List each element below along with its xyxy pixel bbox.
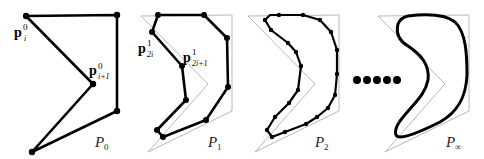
svg-text:0: 0: [104, 142, 109, 152]
ellipsis-dots: [353, 76, 401, 84]
svg-text:2i+1: 2i+1: [192, 59, 208, 68]
panel-p-infinity: P ∞: [378, 15, 469, 152]
svg-text:P: P: [314, 134, 324, 150]
svg-text:p: p: [138, 41, 146, 56]
svg-text:0: 0: [23, 22, 28, 32]
svg-text:p: p: [183, 50, 191, 65]
svg-text:1: 1: [147, 38, 152, 48]
label-p-2i+1-1: p 1 2i+1: [183, 47, 208, 68]
svg-text:p: p: [89, 63, 97, 78]
panel-label-p1: P 1: [207, 134, 222, 152]
panel-label-p2: P 2: [314, 134, 329, 152]
panel-p2: P 2: [248, 13, 339, 152]
svg-text:P: P: [207, 134, 217, 150]
svg-text:i+1: i+1: [98, 72, 110, 81]
subdivision-diagram: p 0 i p 0 i+1 P 0 p: [0, 0, 484, 159]
svg-text:∞: ∞: [455, 142, 461, 152]
control-outline-p2: [248, 15, 339, 152]
svg-text:0: 0: [98, 61, 103, 71]
svg-text:P: P: [445, 134, 455, 150]
svg-text:2i: 2i: [147, 50, 153, 59]
svg-text:1: 1: [217, 142, 222, 152]
panel-label-p0: P 0: [94, 134, 109, 152]
limit-curve: [395, 15, 467, 137]
control-polygon-p0: [26, 15, 117, 152]
label-p-2i-1: p 1 2i: [138, 38, 153, 59]
panel-p1: p 1 2i p 1 2i+1 P 1: [138, 12, 232, 152]
svg-text:2: 2: [324, 142, 329, 152]
svg-text:p: p: [14, 25, 22, 40]
svg-text:1: 1: [192, 47, 197, 57]
control-outline-pinf: [378, 15, 469, 152]
svg-text:P: P: [94, 134, 104, 150]
panel-label-pinf: P ∞: [445, 134, 461, 152]
panel-p0: p 0 i p 0 i+1 P 0: [14, 12, 120, 155]
label-p-i-0: p 0 i: [14, 22, 28, 43]
label-p-i+1-0: p 0 i+1: [89, 61, 110, 81]
svg-text:i: i: [24, 34, 26, 43]
